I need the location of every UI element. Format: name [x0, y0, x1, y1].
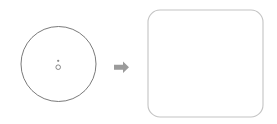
target-shape-group[interactable]	[148, 10, 263, 117]
diagram-canvas	[0, 0, 277, 124]
transformation-diagram	[0, 0, 277, 124]
center-dot-icon	[57, 60, 59, 62]
rounded-square-shape[interactable]	[148, 10, 263, 117]
